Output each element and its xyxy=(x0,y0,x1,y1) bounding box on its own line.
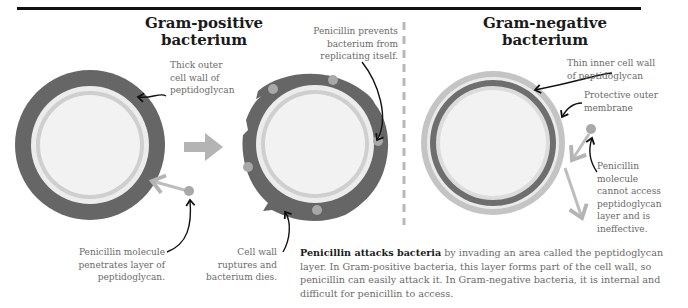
summary-bold: Penicillin attacks bacteria xyxy=(300,247,441,258)
gram-positive-cell xyxy=(15,70,165,220)
gram-negative-title: Gram-negative bacterium xyxy=(465,15,625,49)
label-penetrates: Penicillin molecule penetrates layer of … xyxy=(60,246,165,284)
penetration-arrow xyxy=(152,181,188,191)
ruptured-cell xyxy=(242,74,388,221)
label-prevents: Penicillin prevents bacterium from repli… xyxy=(290,25,398,63)
label-outer-membrane: Protective outer membrane xyxy=(584,89,658,114)
penicillin-molecule-icon xyxy=(184,186,194,196)
penicillin-molecule-icon xyxy=(586,124,596,134)
label-ruptures: Cell wall ruptures and bacterium dies. xyxy=(195,246,277,284)
label-thick-wall: Thick outer cell wall of peptidoglycan xyxy=(170,59,234,97)
summary-paragraph: Penicillin attacks bacteria by invading … xyxy=(300,246,670,300)
label-inner-wall: Thin inner cell wall of peptidoglycan xyxy=(567,57,655,82)
transition-arrow-icon xyxy=(184,133,223,161)
label-ineffective: Penicillin molecule cannot access peptid… xyxy=(597,160,661,235)
gram-positive-title: Gram-positive bacterium xyxy=(130,15,278,49)
gram-negative-cell xyxy=(421,71,565,215)
